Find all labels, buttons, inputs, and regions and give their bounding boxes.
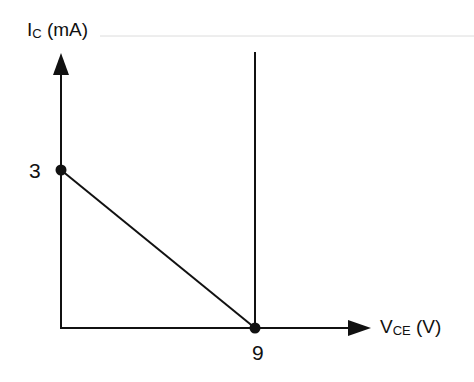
load-line-diagram: IC (mA) VCE (V) 3 9 — [0, 0, 474, 382]
x-axis-subscript: CE — [393, 323, 411, 338]
x-tick-label-9: 9 — [252, 342, 264, 363]
y-axis-label: IC (mA) — [27, 20, 88, 39]
y-axis-unit: (mA) — [47, 19, 88, 40]
point-ic-3 — [56, 165, 67, 176]
y-tick-label-3: 3 — [29, 160, 41, 181]
y-axis-subscript: C — [32, 26, 41, 41]
x-axis-arrow-icon — [348, 320, 371, 336]
x-axis-label: VCE (V) — [380, 317, 441, 336]
x-axis-unit: (V) — [416, 316, 441, 337]
y-axis-arrow-icon — [53, 53, 69, 75]
x-axis-symbol: V — [380, 316, 393, 337]
load-line — [61, 170, 255, 328]
point-vce-9 — [250, 323, 261, 334]
